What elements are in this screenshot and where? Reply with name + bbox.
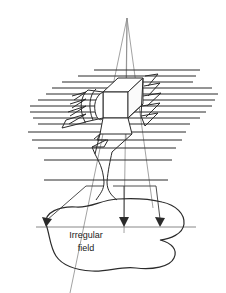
- collimator-block: [62, 74, 161, 200]
- block-lower-step-face: [100, 118, 132, 134]
- beam-neck-right: [107, 152, 117, 200]
- block-bevel-diagonal: [112, 134, 132, 152]
- field-label-line1: Irregular: [69, 230, 103, 240]
- diagram-svg: Irregular field: [0, 0, 226, 293]
- figure-canvas: Irregular field: [0, 0, 226, 293]
- block-front-face: [103, 92, 128, 118]
- shelf-edge: [92, 140, 106, 147]
- block-nose-top-edge: [88, 90, 103, 92]
- field-arrow-left-shaft: [47, 186, 86, 220]
- field-label-line2: field: [78, 243, 95, 253]
- serration-tooth: [72, 92, 86, 100]
- field-arrow-group: [42, 186, 165, 227]
- field-arrow-center-head: [119, 217, 129, 227]
- beam-neck-left: [95, 154, 104, 200]
- lower-shelf-left: [92, 134, 108, 154]
- field-arrow-right-shaft: [156, 186, 160, 219]
- irregular-field-outline: [46, 199, 184, 271]
- block-left-nose: [95, 92, 103, 120]
- field-arrow-right-head: [155, 217, 165, 227]
